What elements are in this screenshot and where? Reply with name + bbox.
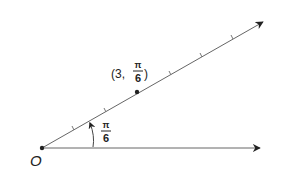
plotted-point [135,90,139,94]
polar-diagram: O (3, π 6 ) π 6 [0,0,282,188]
origin-point [40,146,44,150]
point-theta-denominator: 6 [135,72,141,84]
ray-tick-marks [72,35,233,130]
origin-label: O [30,152,42,169]
point-theta-numerator: π [135,60,142,70]
angle-label: π 6 [101,120,111,144]
angle-ray [42,22,263,148]
point-label-prefix: (3, [111,67,125,81]
point-label: (3, π 6 ) [111,60,148,84]
angle-denominator: 6 [103,132,109,144]
point-label-suffix: ) [144,67,148,81]
angle-arc [90,123,94,147]
angle-numerator: π [103,120,110,130]
